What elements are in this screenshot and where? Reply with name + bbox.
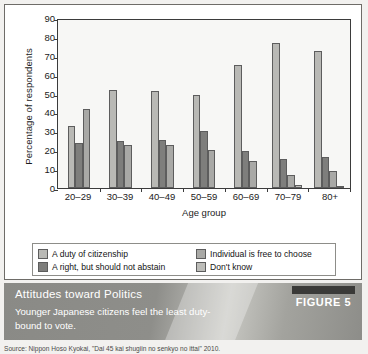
legend-item: Individual is free to choose	[196, 249, 330, 259]
x-tick-label: 60–69	[225, 191, 267, 202]
legend-item: A duty of citizenship	[38, 249, 196, 259]
legend-label: Don't know	[210, 262, 252, 272]
x-tick-label: 50–59	[183, 191, 225, 202]
bar	[124, 145, 132, 188]
figure-badge: FIGURE 5	[292, 286, 355, 308]
y-tick-mark	[54, 171, 58, 172]
y-tick-label: 90	[29, 14, 55, 24]
x-axis-labels: 20–2930–3940–4950–5960–6970–7980+	[57, 191, 351, 202]
y-tick-label: 80	[29, 33, 55, 43]
bar-group	[141, 20, 183, 188]
plot-wrapper: Percentage of respondents 01020304050607…	[5, 5, 363, 237]
y-tick-label: 60	[29, 71, 55, 81]
bar	[208, 150, 216, 188]
bar-groups	[58, 20, 350, 188]
y-tick-mark	[54, 96, 58, 97]
figure-badge-bar	[292, 286, 355, 294]
x-tick-label: 70–79	[267, 191, 309, 202]
bar	[117, 141, 125, 188]
bar-group	[100, 20, 142, 188]
y-tick-mark	[54, 20, 58, 21]
y-tick-mark	[54, 114, 58, 115]
bar-group	[308, 20, 350, 188]
legend-label: A right, but should not abstain	[52, 262, 165, 272]
bar-group	[183, 20, 225, 188]
caption-band: Attitudes toward Politics Younger Japane…	[4, 283, 362, 340]
y-tick-label: 20	[29, 146, 55, 156]
bar	[68, 126, 76, 188]
bar	[151, 91, 159, 188]
y-tick-label: 40	[29, 109, 55, 119]
legend-swatch	[196, 249, 206, 259]
y-tick-label: 70	[29, 52, 55, 62]
caption-title: Attitudes toward Politics	[15, 288, 142, 300]
bar	[83, 109, 91, 188]
x-axis-title: Age group	[57, 207, 351, 218]
legend-swatch	[38, 249, 48, 259]
y-tick-label: 50	[29, 90, 55, 100]
bar	[322, 157, 330, 188]
bar	[280, 159, 288, 188]
bar	[314, 51, 322, 188]
y-tick-mark	[54, 58, 58, 59]
chart-legend: A duty of citizenshipIndividual is free …	[32, 243, 336, 276]
x-tick-label: 40–49	[141, 191, 183, 202]
legend-item: Don't know	[196, 262, 330, 272]
y-tick-mark	[54, 152, 58, 153]
bar	[159, 140, 167, 188]
bar-group	[58, 20, 100, 188]
legend-swatch	[38, 262, 48, 272]
bar	[166, 145, 174, 188]
y-tick-mark	[54, 133, 58, 134]
bar	[249, 161, 257, 188]
bar	[337, 186, 345, 188]
legend-swatch	[196, 262, 206, 272]
bar	[287, 175, 295, 188]
bar	[75, 143, 83, 188]
legend-label: A duty of citizenship	[52, 249, 128, 259]
bar	[193, 95, 201, 189]
bar	[272, 43, 280, 188]
bar	[234, 65, 242, 188]
bar-group	[267, 20, 309, 188]
source-note: Source: Nippon Hoso Kyokai, "Dai 45 kai …	[4, 345, 364, 353]
bar	[200, 131, 208, 188]
bar	[295, 185, 303, 188]
legend-item: A right, but should not abstain	[38, 262, 196, 272]
y-tick-label: 10	[29, 165, 55, 175]
x-tick-label: 80+	[309, 191, 351, 202]
figure-badge-label: FIGURE 5	[292, 296, 355, 308]
plot-area	[57, 19, 351, 189]
caption-subtitle: Younger Japanese citizens feel the least…	[15, 305, 235, 332]
y-tick-mark	[54, 77, 58, 78]
chart-panel: Percentage of respondents 01020304050607…	[4, 4, 362, 280]
legend-label: Individual is free to choose	[210, 249, 312, 259]
bar-group	[225, 20, 267, 188]
y-axis-ticks: 0102030405060708090	[27, 19, 55, 189]
y-tick-label: 30	[29, 128, 55, 138]
bar	[109, 90, 117, 188]
y-tick-mark	[54, 39, 58, 40]
figure-container: Percentage of respondents 01020304050607…	[0, 0, 368, 354]
y-tick-label: 0	[29, 184, 55, 194]
bar	[329, 171, 337, 188]
x-tick-label: 30–39	[99, 191, 141, 202]
x-tick-label: 20–29	[57, 191, 99, 202]
bar	[242, 151, 250, 188]
